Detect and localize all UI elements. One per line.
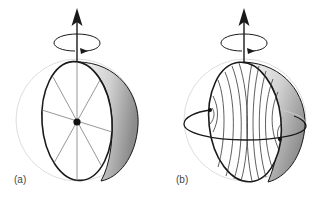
panel-b <box>184 8 306 185</box>
panel-a-label: (a) <box>14 174 26 185</box>
panel-a <box>16 8 138 183</box>
diagram-canvas <box>0 0 322 203</box>
rotation-arrowhead-icon <box>247 48 255 54</box>
equator-node-left <box>208 108 212 112</box>
panel-b-label: (b) <box>176 174 188 185</box>
equator-node-right <box>278 137 282 141</box>
center-dot <box>73 118 80 125</box>
rotation-arrowhead-icon <box>80 48 88 54</box>
